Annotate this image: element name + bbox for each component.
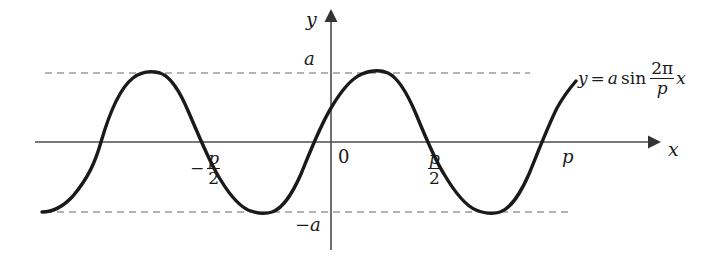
plot-canvas xyxy=(0,0,717,258)
amplitude-negative-label: −a xyxy=(295,216,321,234)
equation-function: sin xyxy=(621,70,646,87)
period-label: p xyxy=(562,148,574,166)
amplitude-positive-label: a xyxy=(304,50,315,68)
fraction-numerator: p xyxy=(207,150,220,168)
equation-fraction-numerator: 2π xyxy=(650,60,674,78)
fraction-stack: p 2 xyxy=(428,150,441,187)
half-period-negative-label: − p 2 xyxy=(190,150,220,187)
fraction-stack: p 2 xyxy=(207,150,220,187)
half-period-positive-label: p 2 xyxy=(428,150,441,187)
fraction-denominator: 2 xyxy=(428,169,441,187)
minus-sign: − xyxy=(190,160,204,177)
equation-lhs: y xyxy=(578,70,588,87)
sine-curve-figure: y x a −a 0 p − p 2 p 2 y = a sin 2π p x xyxy=(0,0,717,258)
equation-fraction: 2π p xyxy=(650,60,674,97)
equation-variable: x xyxy=(676,70,686,87)
fraction-denominator: 2 xyxy=(207,169,220,187)
equation-annotation: y = a sin 2π p x xyxy=(578,60,686,97)
x-axis-label: x xyxy=(668,140,679,159)
fraction-numerator: p xyxy=(428,150,441,168)
y-axis-label: y xyxy=(306,10,317,29)
equation-operator: = xyxy=(591,70,605,87)
y-axis-arrowhead xyxy=(325,9,338,22)
x-axis-arrowhead xyxy=(648,136,661,149)
origin-label: 0 xyxy=(338,148,349,166)
equation-fraction-denominator: p xyxy=(656,79,669,97)
equation-amplitude: a xyxy=(608,70,618,87)
